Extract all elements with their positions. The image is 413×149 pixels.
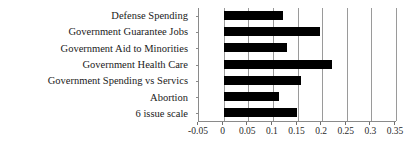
- bar: [224, 76, 301, 85]
- bar-row: [199, 73, 396, 89]
- x-axis-tick-mark: [369, 122, 370, 125]
- bars-layer: [199, 8, 396, 121]
- plot-area: [198, 8, 396, 122]
- bar-row: [199, 57, 396, 73]
- x-axis-tick-mark: [197, 122, 198, 125]
- category-label-abortion: Abortion: [0, 90, 193, 106]
- x-axis-tick-label: 0.25: [337, 126, 354, 136]
- category-label-government-aid-to-minorities: Government Aid to Minorities: [0, 41, 193, 57]
- category-label-government-health-care: Government Health Care: [0, 57, 193, 73]
- x-axis-tick-label: 0.05: [239, 126, 256, 136]
- x-axis-tick-label: 0.1: [266, 126, 278, 136]
- gridline: [396, 8, 397, 121]
- x-axis-tick-mark: [222, 122, 223, 125]
- bar: [224, 11, 283, 20]
- x-axis-tick-label: -0.05: [188, 126, 208, 136]
- bar: [224, 108, 297, 117]
- x-axis-tick-mark: [296, 122, 297, 125]
- bar: [224, 27, 320, 36]
- category-label-6-issue-scale: 6 issue scale: [0, 106, 193, 122]
- category-label-government-spending-vs-servics: Government Spending vs Servics: [0, 73, 193, 89]
- bar: [224, 60, 332, 69]
- value-axis: -0.0500.050.10.150.20.250.30.35: [198, 122, 396, 144]
- x-axis-tick-label: 0.35: [387, 126, 404, 136]
- bar-chart: Defense Spending Government Guarantee Jo…: [0, 0, 413, 149]
- bar-row: [199, 40, 396, 56]
- x-axis-tick-label: 0.15: [288, 126, 305, 136]
- x-axis-tick-mark: [345, 122, 346, 125]
- bar: [224, 92, 279, 101]
- x-axis-tick-mark: [320, 122, 321, 125]
- x-axis-tick-label: 0.3: [364, 126, 376, 136]
- x-axis-tick-mark: [246, 122, 247, 125]
- category-label-government-guarantee-jobs: Government Guarantee Jobs: [0, 24, 193, 40]
- x-axis-tick-label: 0.2: [315, 126, 327, 136]
- bar-row: [199, 89, 396, 105]
- bar-row: [199, 105, 396, 121]
- x-axis-tick-mark: [394, 122, 395, 125]
- bar: [224, 43, 287, 52]
- x-axis-tick-mark: [271, 122, 272, 125]
- bar-row: [199, 24, 396, 40]
- x-axis-tick-label: 0: [220, 126, 225, 136]
- bar-row: [199, 8, 396, 24]
- category-axis: Defense Spending Government Guarantee Jo…: [0, 8, 193, 122]
- category-label-defense-spending: Defense Spending: [0, 8, 193, 24]
